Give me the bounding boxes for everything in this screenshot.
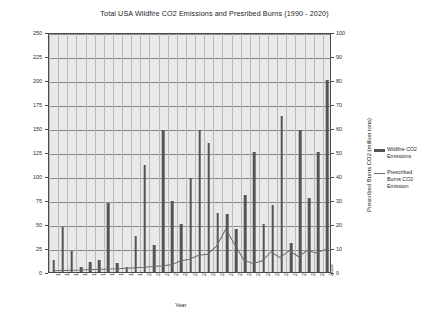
bar (171, 201, 174, 272)
legend-item: PrescribedBurns CO2Emission (374, 169, 429, 190)
bar (98, 260, 101, 272)
bar (198, 130, 201, 272)
bar (226, 214, 229, 272)
y-tick-label-primary: 25 (20, 246, 42, 252)
y-tick-label-secondary: 20 (336, 222, 358, 228)
y-tick-label-secondary: 70 (336, 102, 358, 108)
bar (125, 267, 128, 272)
chart-title: Total USA Wildfire CO2 Emissions and Pre… (0, 9, 429, 18)
bar (262, 224, 265, 272)
bar (144, 165, 147, 272)
y-tick-label-primary: 150 (20, 126, 42, 132)
y-tick-label-primary: 75 (20, 198, 42, 204)
legend-label: Emission (387, 183, 429, 190)
y-tick-mark (331, 57, 334, 58)
bar (299, 130, 302, 272)
y-tick-mark (331, 249, 334, 250)
y-tick-label-primary: 100 (20, 174, 42, 180)
bar (180, 224, 183, 272)
y-tick-label-secondary: 30 (336, 198, 358, 204)
bar (280, 116, 283, 272)
bar (253, 152, 256, 272)
y-tick-label-primary: 250 (20, 30, 42, 36)
legend-label: Emissions (387, 153, 429, 160)
y-tick-label-secondary: 10 (336, 246, 358, 252)
bar (244, 195, 247, 272)
bar (61, 227, 64, 272)
y-tick-mark (331, 177, 334, 178)
y-tick-label-primary: 125 (20, 150, 42, 156)
bar (217, 213, 220, 272)
y-tick-label-secondary: 40 (336, 174, 358, 180)
bar (308, 198, 311, 272)
y-tick-label-primary: 200 (20, 78, 42, 84)
x-axis-label: Year (175, 302, 186, 308)
y-tick-label-primary: 0 (20, 270, 42, 276)
bar (89, 262, 92, 272)
bar (207, 143, 210, 272)
y-tick-label-secondary: 0 (336, 270, 358, 276)
bar (189, 178, 192, 272)
wildfire-co2-chart: Total USA Wildfire CO2 Emissions and Pre… (0, 0, 429, 324)
bar (71, 251, 74, 272)
legend-label: Prescribed (387, 169, 429, 176)
y-tick-mark (331, 33, 334, 34)
bar-series-wildfire (49, 34, 330, 272)
legend-bar-swatch-icon (374, 149, 385, 153)
bar (271, 205, 274, 272)
y-tick-label-secondary: 50 (336, 150, 358, 156)
y-tick-mark (331, 201, 334, 202)
legend-label: Burns CO2 (387, 176, 429, 183)
y-tick-label-primary: 50 (20, 222, 42, 228)
bar (52, 260, 55, 272)
y-tick-mark (331, 225, 334, 226)
y-tick-mark (331, 129, 334, 130)
y-tick-label-secondary: 90 (336, 54, 358, 60)
y-tick-label-secondary: 100 (336, 30, 358, 36)
y-tick-mark (331, 81, 334, 82)
bar (326, 80, 329, 272)
legend-label: Wildfire CO2 (387, 146, 429, 153)
bar (317, 152, 320, 272)
bar (80, 267, 83, 272)
bar (235, 229, 238, 272)
y-tick-label-primary: 175 (20, 102, 42, 108)
y-axis-label-secondary: Prescribed Burns CO2 (million tons) (366, 118, 372, 212)
bar (290, 243, 293, 272)
legend-item: Wildfire CO2Emissions (374, 146, 429, 160)
y-tick-label-secondary: 80 (336, 78, 358, 84)
bar (107, 203, 110, 272)
chart-legend: Wildfire CO2EmissionsPrescribedBurns CO2… (374, 146, 429, 199)
bar (153, 245, 156, 272)
y-tick-mark (331, 153, 334, 154)
bar (116, 263, 119, 272)
y-tick-mark (331, 105, 334, 106)
legend-line-swatch-icon (374, 173, 385, 174)
bar (162, 130, 165, 272)
plot-area (48, 33, 331, 273)
bar (134, 236, 137, 272)
y-tick-label-secondary: 60 (336, 126, 358, 132)
y-tick-mark (45, 273, 48, 274)
y-tick-label-primary: 225 (20, 54, 42, 60)
